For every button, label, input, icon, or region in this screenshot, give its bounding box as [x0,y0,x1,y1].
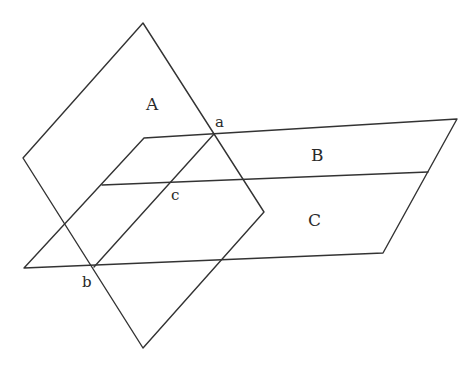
bc-divider-line [102,172,428,185]
plane-label-c: C [308,210,321,230]
planes-diagram: A B C a c b [0,0,476,371]
point-label-c: c [171,186,179,204]
plane-bc-outline [24,119,457,268]
plane-label-a: A [145,94,159,114]
point-label-a: a [215,113,224,131]
plane-a-outline [23,23,264,348]
line-a-b [94,134,214,267]
point-label-b: b [82,273,92,291]
plane-label-b: B [311,145,324,165]
